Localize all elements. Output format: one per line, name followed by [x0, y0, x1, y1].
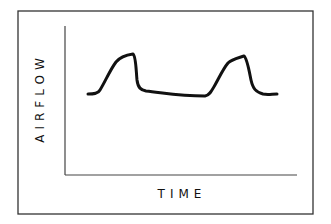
- x-axis-label: TIME: [157, 187, 207, 201]
- frame-border: [18, 11, 313, 214]
- airflow-waveform: [88, 54, 277, 96]
- airflow-diagram: AIRFLOW TIME: [0, 0, 331, 224]
- y-axis-label: AIRFLOW: [33, 53, 47, 143]
